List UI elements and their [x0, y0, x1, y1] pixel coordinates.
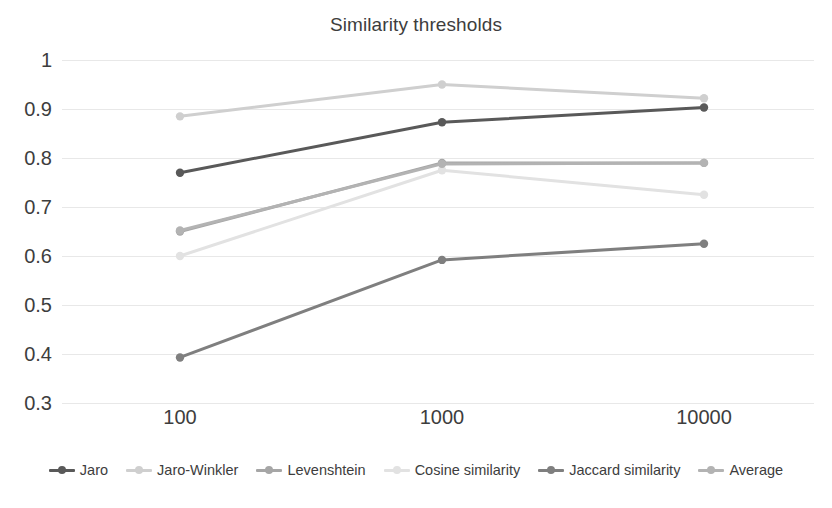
data-point	[438, 80, 446, 88]
series-jaccard-similarity	[176, 240, 708, 362]
legend-label: Jaro	[80, 462, 108, 478]
y-tick-label: 0.6	[24, 245, 52, 268]
data-point	[438, 256, 446, 264]
gridline	[62, 403, 814, 404]
y-tick-label: 0.8	[24, 147, 52, 170]
legend-dot	[58, 466, 66, 474]
plot-area	[62, 60, 814, 403]
data-point	[176, 226, 184, 234]
data-point	[700, 159, 708, 167]
legend-item-jaro-winkler[interactable]: Jaro-Winkler	[126, 462, 238, 478]
y-tick-label: 0.5	[24, 294, 52, 317]
series-jaro-winkler	[176, 80, 708, 120]
legend-dot	[547, 466, 555, 474]
chart-legend: JaroJaro-WinklerLevenshteinCosine simila…	[0, 462, 832, 478]
data-point	[176, 252, 184, 260]
data-point	[700, 94, 708, 102]
x-tick-label: 1000	[420, 406, 465, 429]
legend-label: Jaro-Winkler	[157, 462, 238, 478]
legend-label: Jaccard similarity	[569, 462, 680, 478]
x-tick-label: 10000	[676, 406, 732, 429]
legend-item-jaro[interactable]: Jaro	[49, 462, 108, 478]
x-tick-label: 100	[163, 406, 196, 429]
chart-title: Similarity thresholds	[0, 14, 832, 36]
legend-dot	[265, 466, 273, 474]
legend-item-cosine-similarity[interactable]: Cosine similarity	[384, 462, 521, 478]
series-line	[180, 170, 704, 256]
legend-label: Cosine similarity	[415, 462, 521, 478]
legend-item-jaccard-similarity[interactable]: Jaccard similarity	[538, 462, 680, 478]
legend-label: Levenshtein	[287, 462, 365, 478]
y-tick-label: 0.4	[24, 343, 52, 366]
data-point	[700, 191, 708, 199]
legend-label: Average	[729, 462, 783, 478]
legend-swatch-icon	[538, 464, 564, 476]
legend-swatch-icon	[126, 464, 152, 476]
legend-swatch-icon	[256, 464, 282, 476]
data-point	[700, 103, 708, 111]
legend-swatch-icon	[49, 464, 75, 476]
legend-dot	[135, 466, 143, 474]
y-tick-label: 1	[41, 49, 52, 72]
legend-dot	[393, 466, 401, 474]
data-point	[700, 240, 708, 248]
legend-swatch-icon	[698, 464, 724, 476]
data-point	[176, 112, 184, 120]
data-point	[438, 118, 446, 126]
data-point	[176, 353, 184, 361]
y-tick-label: 0.9	[24, 98, 52, 121]
data-point	[176, 169, 184, 177]
legend-item-average[interactable]: Average	[698, 462, 783, 478]
legend-dot	[707, 466, 715, 474]
legend-swatch-icon	[384, 464, 410, 476]
series-layer	[62, 60, 814, 403]
legend-item-levenshtein[interactable]: Levenshtein	[256, 462, 365, 478]
chart-container: Similarity thresholds 10.90.80.70.60.50.…	[0, 0, 832, 508]
y-tick-label: 0.3	[24, 392, 52, 415]
y-tick-label: 0.7	[24, 196, 52, 219]
x-axis: 100100010000	[62, 406, 814, 440]
y-axis: 10.90.80.70.60.50.40.3	[0, 60, 52, 403]
data-point	[438, 160, 446, 168]
